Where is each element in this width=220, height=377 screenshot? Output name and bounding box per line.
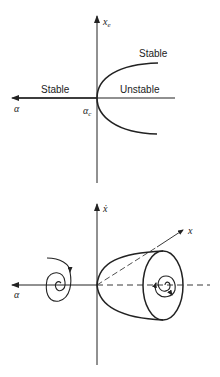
- x-axis: [157, 230, 183, 247]
- stable-spiral: [46, 258, 70, 301]
- unstable-label: Unstable: [120, 84, 160, 95]
- phase-space-diagram: ẋ x α: [12, 203, 210, 365]
- xe-axis-label: xe: [102, 16, 111, 29]
- alpha-c-label: αc: [83, 105, 92, 118]
- stable-left-label: Stable: [41, 84, 70, 95]
- bifurcation-diagram: xe Stable Stable Unstable α αc: [12, 16, 175, 183]
- lower-stable-branch: [97, 98, 157, 134]
- stable-upper-label: Stable: [139, 48, 168, 59]
- limit-cycle: [143, 251, 183, 320]
- diagram-canvas: xe Stable Stable Unstable α αc: [0, 0, 220, 377]
- alpha-axis-label-bottom: α: [14, 289, 20, 300]
- alpha-axis-label: α: [14, 103, 20, 114]
- unstable-spiral: [155, 276, 175, 297]
- x-axis-label: x: [187, 225, 193, 236]
- xdot-axis-label: ẋ: [102, 203, 108, 214]
